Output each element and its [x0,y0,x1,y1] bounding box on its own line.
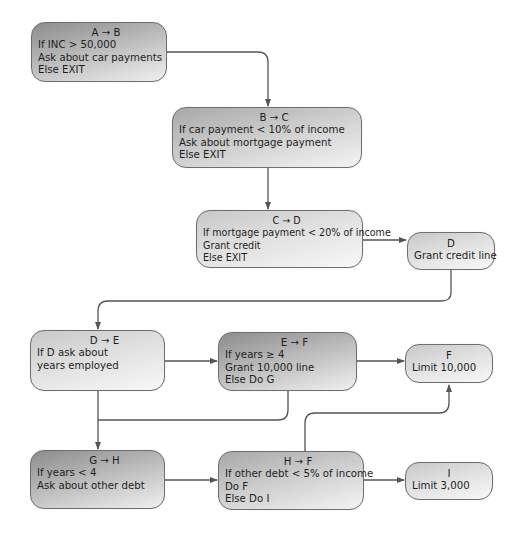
node-line: years employed [37,360,158,372]
node-line: Else EXIT [179,149,355,161]
node-title: D → E [37,335,158,347]
node-a-b: A → B If INC > 50,000 Ask about car paym… [31,22,167,82]
edge-ab-bc [167,52,268,106]
node-b-c: B → C If car payment < 10% of income Ask… [172,107,362,168]
node-line: Else EXIT [38,64,160,76]
node-e-f: E → F If years ≥ 4 Grant 10,000 line Els… [218,332,357,391]
node-title: C → D [203,215,356,227]
node-line: Ask about mortgage payment [179,137,355,149]
node-d: D Grant credit line [407,232,495,270]
node-f: F Limit 10,000 [405,344,493,383]
node-line: Limit 10,000 [412,362,486,374]
node-g-h: G → H If years < 4 Ask about other debt [30,450,165,509]
node-line: If years ≥ 4 [225,349,350,361]
node-h-f: H → F If other debt < 5% of income Do F … [218,451,364,510]
node-line: Grant credit line [414,250,488,262]
node-line: If years < 4 [37,467,158,479]
node-title: G → H [37,455,158,467]
node-line: Else EXIT [203,252,356,264]
node-title: B → C [179,112,355,124]
node-line: Limit 3,000 [412,480,486,492]
node-line: Grant credit [203,240,356,252]
node-line: If car payment < 10% of income [179,124,355,136]
node-c-d: C → D If mortgage payment < 20% of incom… [196,210,363,268]
node-line: Else Do G [225,374,350,386]
node-line: Grant 10,000 line [225,362,350,374]
node-line: Ask about car payments [38,52,160,64]
node-title: H → F [225,456,357,468]
node-title: F [412,350,486,362]
node-line: If D ask about [37,347,158,359]
edge-d-de [98,270,451,329]
node-line: Ask about other debt [37,480,158,492]
node-line: If mortgage payment < 20% of income [203,227,356,239]
edge-hf-f [305,385,449,451]
node-title: I [412,468,486,480]
node-d-e: D → E If D ask about years employed [30,330,165,391]
node-title: D [414,238,488,250]
node-i: I Limit 3,000 [405,462,493,500]
node-line: If other debt < 5% of income [225,468,357,480]
node-title: A → B [38,27,160,39]
node-line: If INC > 50,000 [38,39,160,51]
edge-ef-gh [98,391,288,420]
node-line: Else Do I [225,493,357,505]
node-line: Do F [225,481,357,493]
node-title: E → F [225,337,350,349]
